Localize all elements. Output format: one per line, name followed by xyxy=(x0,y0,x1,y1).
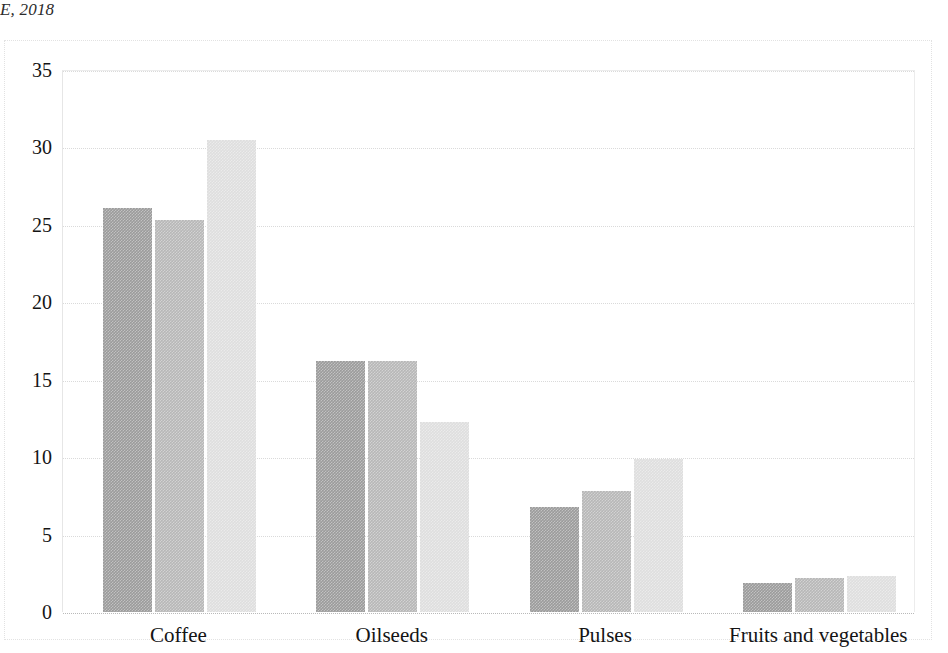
y-tick-label-25: 25 xyxy=(6,215,52,235)
x-axis-tick-labels: CoffeeOilseedsPulsesFruits and vegetable… xyxy=(62,622,915,653)
bar-group xyxy=(63,71,276,612)
x-tick-label: Pulses xyxy=(578,622,632,648)
bar xyxy=(795,578,844,612)
x-tick-label: Oilseeds xyxy=(356,622,428,648)
bar xyxy=(155,220,204,612)
bar-group xyxy=(703,71,916,612)
bar xyxy=(634,459,683,612)
y-tick-label-15: 15 xyxy=(6,370,52,390)
bar-group xyxy=(276,71,489,612)
bar xyxy=(103,208,152,612)
bar xyxy=(207,140,256,612)
y-axis-tick-labels: 05101520253035 xyxy=(0,70,52,612)
y-tick-label-20: 20 xyxy=(6,292,52,312)
y-tick-label-30: 30 xyxy=(6,137,52,157)
bar-group xyxy=(490,71,703,612)
x-tick-label: Coffee xyxy=(150,622,207,648)
bar xyxy=(847,576,896,612)
bar xyxy=(316,361,365,612)
bar xyxy=(368,361,417,612)
bar xyxy=(743,583,792,612)
plot-area xyxy=(62,70,915,612)
y-tick-label-10: 10 xyxy=(6,447,52,467)
caption-fragment: E, 2018 xyxy=(0,0,54,20)
y-tick-label-5: 5 xyxy=(6,525,52,545)
bar xyxy=(582,491,631,612)
bar xyxy=(420,422,469,612)
y-tick-label-0: 0 xyxy=(6,602,52,622)
x-tick-label: Fruits and vegetables xyxy=(729,622,907,648)
bar xyxy=(530,507,579,612)
y-tick-label-35: 35 xyxy=(6,60,52,80)
bar-chart-figure: 05101520253035 CoffeeOilseedsPulsesFruit… xyxy=(0,40,948,653)
gridline-0 xyxy=(63,613,914,614)
